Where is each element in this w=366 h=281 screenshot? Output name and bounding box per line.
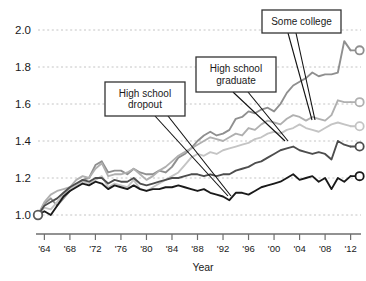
callout-label-high-school-dropout: dropout xyxy=(128,99,162,110)
x-tick-label-'64: '64 xyxy=(38,243,50,254)
x-tick-label-'72: '72 xyxy=(89,243,101,254)
series-end-marker-high-school-graduate xyxy=(356,142,364,150)
x-tick-label-'76: '76 xyxy=(115,243,127,254)
series-end-marker-college-graduate xyxy=(356,98,364,106)
x-tick-label-'68: '68 xyxy=(64,243,76,254)
callout-label-high-school-graduate: graduate xyxy=(216,75,256,86)
x-tick-label-'04: '04 xyxy=(293,243,305,254)
y-tick-label-1.8: 1.8 xyxy=(15,61,31,73)
x-tick-label-'84: '84 xyxy=(166,243,178,254)
origin-marker-group xyxy=(34,211,43,220)
series-end-markers xyxy=(351,46,364,180)
x-tick-label-'00: '00 xyxy=(268,243,280,254)
y-axis-tick-labels: 1.01.21.41.61.82.0 xyxy=(15,24,32,221)
callout-label-high-school-dropout: High school xyxy=(119,88,171,99)
x-axis-line-group xyxy=(36,234,361,240)
y-tick-label-1.6: 1.6 xyxy=(15,98,31,110)
series-line-some-college xyxy=(38,123,351,216)
x-tick-label-'96: '96 xyxy=(242,243,254,254)
callout-label-high-school-graduate: High school xyxy=(210,63,262,74)
y-tick-label-2.0: 2.0 xyxy=(15,24,31,36)
x-axis-title: Year xyxy=(192,261,214,273)
series-end-marker-advanced-degree xyxy=(356,46,364,54)
leader-line-some-college xyxy=(296,33,315,120)
series-end-marker-some-college xyxy=(356,122,364,130)
line-chart: 1.01.21.41.61.82.0 '64'68'72'76'80'84'88… xyxy=(0,0,366,281)
y-tick-label-1.2: 1.2 xyxy=(15,172,31,184)
series-line-college-graduate xyxy=(38,100,351,215)
callout-high-school-dropout: High schooldropout xyxy=(105,82,185,116)
callout-label-some-college: Some college xyxy=(271,16,332,27)
y-tick-label-1.4: 1.4 xyxy=(15,135,32,147)
x-tick-label-'88: '88 xyxy=(191,243,203,254)
origin-marker xyxy=(34,211,43,220)
y-tick-label-1.0: 1.0 xyxy=(15,209,31,221)
x-tick-label-'92: '92 xyxy=(217,243,229,254)
x-tick-label-'12: '12 xyxy=(344,243,356,254)
x-tick-label-'08: '08 xyxy=(319,243,331,254)
callout-high-school-graduate: High schoolgraduate xyxy=(196,57,276,92)
callout-boxes: High schooldropoutHigh schoolgraduateSom… xyxy=(105,10,341,116)
series-end-marker-high-school-dropout xyxy=(356,172,364,180)
chart-canvas: 1.01.21.41.61.82.0 '64'68'72'76'80'84'88… xyxy=(0,0,366,281)
x-tick-label-'80: '80 xyxy=(140,243,152,254)
x-axis-tick-labels: '64'68'72'76'80'84'88'92'96'00'04'08'12 xyxy=(38,243,357,254)
leader-line-high-school-dropout xyxy=(155,116,228,196)
callout-some-college: Some college xyxy=(262,10,341,33)
